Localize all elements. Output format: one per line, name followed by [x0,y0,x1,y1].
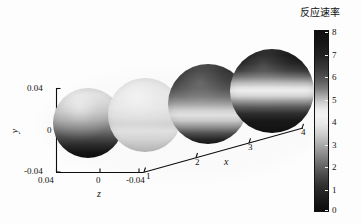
x-tick-label-3: 4 [301,128,306,137]
colorbar-gradient [314,30,329,212]
colorbar-label-2: 2 [332,163,337,172]
colorbar-tick-4 [325,122,328,123]
colorbar-tick-8 [325,32,328,33]
z-tick-label-1: 0 [96,176,101,185]
colorbar-label-5: 5 [332,95,337,104]
x-tick-label-0: 1 [146,172,151,181]
colorbar-tick-1 [325,190,328,191]
x-tick-label-1: 2 [195,158,200,167]
colorbar-tick-6 [325,77,328,78]
colorbar-label-8: 8 [332,28,337,37]
colorbar-tick-5 [325,100,328,101]
colorbar-tick-2 [325,167,328,168]
y-tick-label-0: 0.04 [27,84,43,93]
sphere-4-shading [230,49,314,133]
z-axis-label: z [97,189,101,199]
colorbar-tick-7 [325,55,328,56]
colorbar: 8 7 6 5 4 3 2 1 0 [314,30,329,212]
figure-canvas: 0.04 0 -0.04 y 0.04 0 -0.04 z 1 2 3 4 x … [0,0,361,224]
colorbar-label-1: 1 [332,185,337,194]
x-tick-label-2: 3 [248,143,253,152]
colorbar-title: 反应速率 [300,8,340,18]
colorbar-tick-3 [325,145,328,146]
colorbar-label-4: 4 [332,118,337,127]
data-sphere-4 [230,49,314,133]
colorbar-tick-0 [325,210,328,211]
colorbar-label-7: 7 [332,50,337,59]
z-tick-label-0: 0.04 [38,176,54,185]
y-axis-label: y [10,129,20,133]
colorbar-label-0: 0 [332,206,337,215]
z-tick-label-2: -0.04 [126,176,145,185]
x-axis-label: x [224,157,228,167]
colorbar-label-6: 6 [332,73,337,82]
colorbar-label-3: 3 [332,140,337,149]
y-tick-label-1: 0 [47,126,52,135]
